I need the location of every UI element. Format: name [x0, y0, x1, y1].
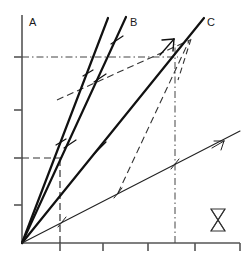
series-c-arrowhead — [160, 39, 174, 55]
y-axis-ticks — [14, 57, 22, 205]
dashed-parallel-guide — [118, 41, 189, 193]
dashed-shallow-guide — [57, 40, 190, 100]
series-thin-lower — [22, 131, 240, 243]
thin-line-tick — [58, 217, 66, 227]
curve-label-a: A — [29, 17, 36, 28]
series-c — [22, 18, 204, 243]
series-c-tick — [94, 142, 106, 154]
bowtie-icon — [211, 209, 225, 231]
curve-label-b: B — [130, 17, 137, 28]
series-a — [22, 18, 108, 243]
series-b — [22, 17, 126, 243]
axes-group — [14, 15, 240, 251]
curve-label-c: C — [207, 17, 215, 28]
chart-figure: A B C — [0, 0, 247, 265]
thin-line-tick — [114, 188, 122, 198]
series-group — [22, 17, 240, 243]
chart-svg — [0, 0, 247, 265]
x-axis-ticks — [60, 243, 240, 251]
